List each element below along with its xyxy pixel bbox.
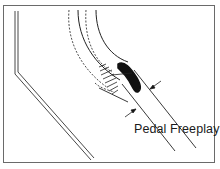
freeplay-reference-lines: [99, 70, 196, 151]
floor-panel-outline: [15, 11, 94, 160]
pedal-arm-dashed: [69, 10, 114, 92]
pedal-freeplay-diagram: [0, 0, 220, 169]
dimension-arrows: [125, 81, 161, 117]
pedal-pad: [118, 63, 140, 92]
pedal-freeplay-label: Pedal Freeplay: [134, 122, 219, 136]
